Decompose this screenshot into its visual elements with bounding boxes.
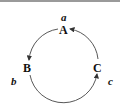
annotation-c: c <box>108 76 113 87</box>
annotation-a: a <box>61 12 67 23</box>
annotation-b: b <box>11 76 17 87</box>
node-c: C <box>93 62 102 74</box>
arc-a-to-b <box>29 29 58 60</box>
node-b: B <box>23 62 31 74</box>
cycle-arrows <box>0 0 120 105</box>
arc-c-to-a <box>70 29 98 59</box>
arc-b-to-c <box>30 74 97 103</box>
node-a: A <box>59 24 68 36</box>
